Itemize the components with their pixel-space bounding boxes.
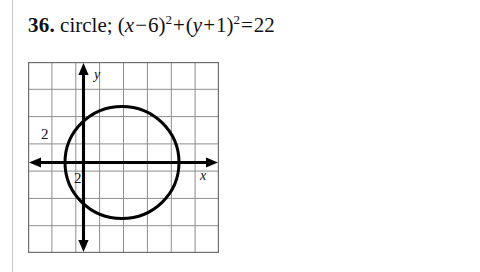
equation-const-1: 1 [216,13,227,37]
equation-rhs-value: 22 [254,13,275,37]
y-axis-tick-label: 2 [41,126,49,142]
equation-plus-operator: + [172,13,186,37]
answer-equation: (x−6)2+(y+1)2=22 [118,13,275,37]
answer-line: 36. circle; (x−6)2+(y+1)2=22 [28,13,275,37]
graph-svg: 2 2 y x [28,62,219,253]
answer-type-label: circle; [60,13,112,37]
equation-minus-operator: − [134,13,148,37]
x-axis-tick-label: 2 [74,170,82,186]
circle-graph: 2 2 y x [28,62,219,253]
equation-plus-operator-2: + [202,13,216,37]
equation-var-y: y [193,13,202,37]
equation-equals-sign: = [240,13,254,37]
equation-const-6: 6 [148,13,159,37]
y-axis-label: y [92,67,101,82]
equation-close-paren-2: ) [227,13,234,37]
x-axis-label: x [199,168,207,183]
equation-open-paren-2: ( [186,13,193,37]
answer-number: 36. [28,13,55,37]
equation-close-paren-1: ) [159,13,166,37]
equation-var-x: x [125,13,134,37]
equation-open-paren-1: ( [118,13,125,37]
page-margin-rule [12,0,13,272]
